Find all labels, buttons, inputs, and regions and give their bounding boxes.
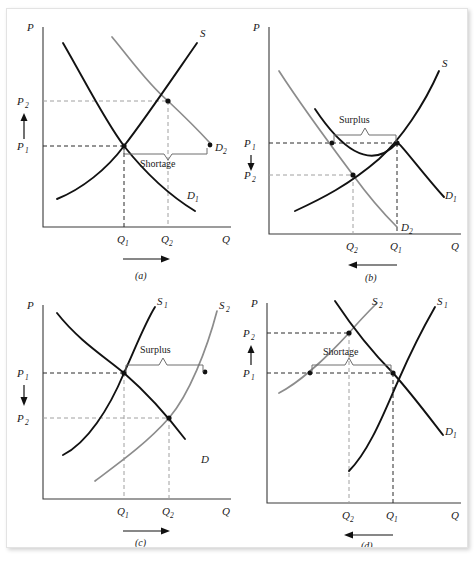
svg-text:S: S: [437, 295, 443, 307]
figure-frame: P Q Shortage S D 2 D: [6, 8, 468, 548]
panel-b-equilibrium-dot-2: [350, 172, 355, 177]
panel-c-shift-arrow-right: [123, 528, 170, 535]
panel-b-price-tick-p1: P 1: [243, 137, 256, 152]
svg-text:Q: Q: [390, 240, 398, 252]
svg-text:1: 1: [25, 373, 29, 382]
panel-a-price-tick-p1: P 1: [16, 140, 29, 155]
panel-a-equilibrium-dot-2: [165, 98, 170, 103]
svg-text:2: 2: [170, 511, 174, 520]
panel-b-quantity-tick-q2: Q 2: [346, 240, 358, 255]
panel-a-label-d1: D 1: [186, 189, 199, 204]
panel-b-quantity-tick-q1: Q 1: [390, 240, 402, 255]
panel-b-label-d1: D 1: [444, 189, 457, 204]
svg-text:1: 1: [164, 301, 168, 310]
svg-text:1: 1: [394, 515, 398, 524]
svg-text:D: D: [444, 189, 453, 201]
panel-c-curve-s1: [63, 307, 155, 455]
panel-a-shortage-endpoint-dot: [208, 143, 213, 148]
panel-c-label-s2: S 2: [219, 299, 230, 314]
svg-text:D: D: [186, 189, 195, 201]
svg-text:1: 1: [125, 511, 129, 520]
svg-text:1: 1: [398, 246, 402, 255]
panel-d-label-d1: D 1: [444, 425, 457, 440]
panel-a-label-s: S: [200, 27, 206, 39]
panel-a-gap-label: Shortage: [140, 158, 176, 169]
panel-a-quantity-axis-label: Q: [222, 233, 230, 245]
svg-text:P: P: [242, 327, 250, 339]
panel-a-price-tick-p2: P 2: [16, 95, 29, 110]
panel-b-shift-arrow-left: [348, 262, 397, 269]
panel-c-label-s1: S 1: [157, 295, 168, 310]
svg-text:P: P: [16, 95, 24, 107]
panel-d-price-arrow-up: [248, 345, 255, 365]
panel-c-gap-label: Surplus: [140, 344, 171, 355]
panel-b-price-axis-label: P: [252, 21, 260, 33]
panel-a: P Q Shortage S D 2 D: [7, 9, 239, 283]
panel-a-label-d2: D 2: [214, 141, 227, 156]
svg-text:S: S: [372, 295, 378, 307]
panel-b-axes: [269, 27, 461, 234]
panel-a-price-axis-label: P: [26, 21, 34, 33]
panel-a-quantity-tick-q1: Q 1: [117, 233, 129, 248]
svg-text:P: P: [16, 367, 24, 379]
panel-b-quantity-axis-label: Q: [451, 240, 459, 252]
panel-d-quantity-tick-q2: Q 2: [342, 509, 354, 524]
panel-a-price-arrow-up: [21, 113, 28, 139]
panel-c-axes: [43, 305, 231, 499]
panel-c-quantity-tick-q1: Q 1: [117, 505, 129, 520]
svg-text:D: D: [444, 425, 453, 437]
panel-a-curve-d2: [112, 37, 210, 143]
panel-d-gap-label: Shortage: [323, 346, 359, 357]
panel-d-shortage-bracket: [312, 358, 391, 372]
panel-b-equilibrium-dot-1: [394, 140, 399, 145]
panel-b-curve-s: [295, 71, 439, 211]
panel-c-quantity-tick-q2: Q 2: [162, 505, 174, 520]
svg-text:2: 2: [350, 515, 354, 524]
panel-b-caption: (b): [365, 272, 377, 283]
panel-c: P Q Surplus S 1 S: [7, 283, 239, 547]
panel-d-equilibrium-dot-2: [346, 330, 351, 335]
svg-text:2: 2: [25, 418, 29, 427]
svg-text:P: P: [243, 137, 251, 149]
panel-d-caption: (d): [361, 540, 373, 547]
panel-a-equilibrium-dot-1: [121, 143, 126, 148]
panel-c-caption: (c): [135, 537, 147, 547]
panel-b-curve-d1: [315, 109, 444, 197]
panel-d-shift-arrow-left: [344, 532, 393, 539]
svg-text:2: 2: [379, 301, 383, 310]
panel-d-price-tick-p1: P 1: [242, 367, 255, 382]
panel-c-surplus-bracket: [126, 358, 203, 372]
svg-text:S: S: [219, 299, 225, 311]
svg-text:P: P: [16, 412, 24, 424]
panel-d-quantity-axis-label: Q: [451, 509, 459, 521]
panel-b-label-s: S: [442, 57, 448, 69]
panel-a-shift-arrow-right: [123, 256, 170, 263]
panel-d-curve-s1: [349, 307, 435, 471]
svg-text:Q: Q: [342, 509, 350, 521]
panel-c-price-axis-label: P: [26, 299, 34, 311]
svg-text:1: 1: [25, 146, 29, 155]
svg-text:Q: Q: [161, 233, 169, 245]
panel-d-price-axis-label: P: [250, 297, 258, 309]
panel-d-quantity-tick-q1: Q 1: [386, 509, 398, 524]
svg-text:Q: Q: [117, 505, 125, 517]
panel-a-caption: (a): [135, 270, 147, 282]
svg-text:2: 2: [226, 305, 230, 314]
panel-b-surplus-bracket: [334, 128, 396, 142]
panel-c-price-arrow-down: [21, 385, 28, 406]
svg-text:1: 1: [125, 239, 129, 248]
svg-text:P: P: [243, 169, 251, 181]
panel-c-price-tick-p2: P 2: [16, 412, 29, 427]
svg-text:1: 1: [453, 195, 457, 204]
svg-text:Q: Q: [346, 240, 354, 252]
svg-text:1: 1: [453, 431, 457, 440]
svg-text:2: 2: [169, 239, 173, 248]
svg-text:Q: Q: [386, 509, 394, 521]
svg-text:2: 2: [25, 101, 29, 110]
svg-text:D: D: [214, 141, 223, 153]
svg-text:2: 2: [223, 147, 227, 156]
svg-text:Q: Q: [162, 505, 170, 517]
panel-d: P Q Shortage S 2 S: [239, 283, 469, 547]
svg-text:1: 1: [251, 373, 255, 382]
panel-c-quantity-axis-label: Q: [222, 505, 230, 517]
